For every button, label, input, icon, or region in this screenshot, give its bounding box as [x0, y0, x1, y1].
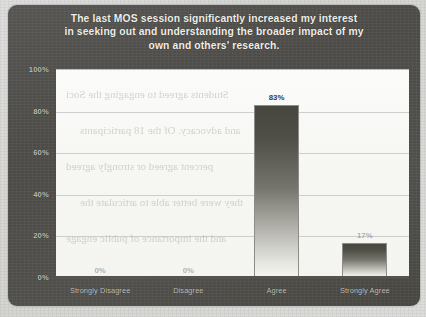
y-axis-tick-label: 0%: [38, 273, 49, 282]
x-axis-category-label: Disagree: [173, 286, 203, 295]
ghost-text-line: they were better able to articulate the: [80, 196, 243, 208]
y-axis-tick-labels: 0%20%40%60%80%100%: [8, 63, 52, 283]
y-axis-tick-label: 80%: [33, 106, 49, 115]
plot-wrap: Students agreed to engaging the Sociand …: [56, 69, 409, 283]
chart-panel: The last MOS session significantly incre…: [8, 5, 420, 306]
x-axis-category-label: Strongly Disagree: [70, 286, 130, 295]
bar-value-label: 83%: [269, 93, 285, 102]
bar: [254, 105, 299, 278]
plot-area: Students agreed to engaging the Sociand …: [56, 69, 409, 278]
chart-title-line-2: in seeking out and understanding the bro…: [26, 25, 402, 38]
ghost-text-line: percent agreed or strongly agreed: [66, 160, 213, 172]
gridline: [56, 195, 409, 196]
gridline: [56, 112, 409, 113]
chart-title: The last MOS session significantly incre…: [26, 12, 402, 52]
gridline: [56, 153, 409, 154]
y-axis-tick-label: 40%: [33, 189, 49, 198]
x-axis-baseline: [56, 276, 409, 278]
x-axis-category-labels: Strongly DisagreeDisagreeAgreeStrongly A…: [56, 286, 409, 304]
bar-value-label: 17%: [357, 231, 373, 240]
y-axis-tick-label: 100%: [29, 65, 49, 74]
bar-value-label: 0%: [94, 266, 105, 275]
ghost-text-line: and advocacy. Of the 18 participants: [80, 124, 241, 136]
bar: [342, 243, 387, 278]
chart-title-line-3: own and others' research.: [26, 39, 402, 52]
x-axis-category-label: Agree: [267, 286, 287, 295]
x-axis-category-label: Strongly Agree: [340, 286, 390, 295]
bar-value-label: 0%: [183, 266, 194, 275]
ghost-text-line: Students agreed to engaging the Soci: [66, 88, 229, 100]
y-axis-tick-label: 60%: [33, 148, 49, 157]
y-axis-tick-label: 20%: [33, 231, 49, 240]
ghost-text-line: and the importance of public engage: [66, 232, 226, 244]
chart-title-line-1: The last MOS session significantly incre…: [26, 12, 402, 25]
gridline: [56, 70, 409, 71]
